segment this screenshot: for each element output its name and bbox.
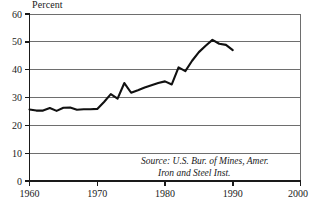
y-tick-label-60: 60 <box>12 9 22 20</box>
data-series-line <box>30 40 233 111</box>
y-tick-label-30: 30 <box>12 92 22 103</box>
y-tick-label-0: 0 <box>17 176 22 187</box>
gridlines <box>29 14 300 153</box>
x-tick-label-1980: 1980 <box>155 188 175 199</box>
chart-figure: Percent 60 50 40 30 <box>0 0 312 209</box>
x-tick-label-1990: 1990 <box>223 188 243 199</box>
y-tick-label-50: 50 <box>12 36 22 47</box>
x-tick-label-1960: 1960 <box>20 188 40 199</box>
y-tick-marks <box>25 14 29 181</box>
y-tick-label-10: 10 <box>12 148 22 159</box>
source-note-line-1: Source: U.S. Bur. of Mines, Amer. <box>141 156 269 166</box>
y-tick-label-40: 40 <box>12 64 22 75</box>
y-tick-label-20: 20 <box>12 120 22 131</box>
source-note-line-2: Iron and Steel Inst. <box>157 168 230 178</box>
x-tick-label-1970: 1970 <box>87 188 107 199</box>
chart-canvas: 60 50 40 30 20 10 0 1960 1970 1980 1990 … <box>0 0 312 209</box>
x-tick-label-2000: 2000 <box>288 188 308 199</box>
